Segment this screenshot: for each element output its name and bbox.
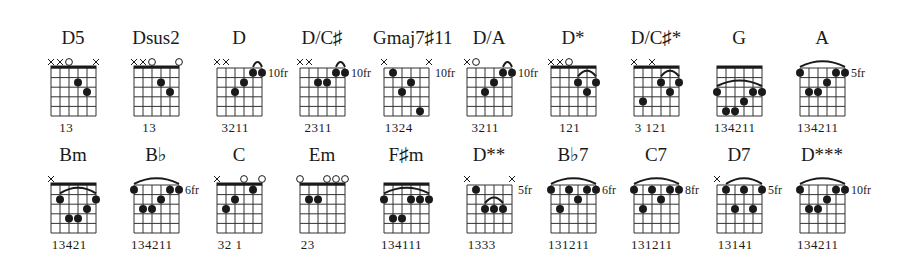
chord-diagram: Em 23 — [289, 145, 369, 265]
finger-dot — [65, 215, 73, 223]
finger-dot — [148, 205, 156, 213]
open-string-icon — [66, 59, 73, 66]
fret-position-label: 6fr — [185, 184, 199, 196]
muted-string-icon — [48, 59, 54, 65]
muted-string-icon — [131, 59, 137, 65]
finger-dot — [314, 78, 322, 86]
fingering-label: 1333 — [464, 237, 530, 253]
finger-dot — [240, 78, 248, 86]
finger-dot — [657, 78, 665, 86]
finger-dot — [841, 186, 849, 194]
chord-diagram: D**5fr 1333 — [456, 145, 536, 265]
barre-arc — [717, 80, 762, 86]
nut — [551, 66, 597, 69]
barre-arc — [384, 188, 429, 194]
finger-dot — [407, 78, 415, 86]
finger-dot — [83, 88, 91, 96]
finger-dot — [341, 69, 349, 77]
muted-string-icon — [548, 59, 554, 65]
finger-dot — [130, 186, 138, 194]
nut — [51, 66, 97, 69]
finger-dot — [758, 88, 766, 96]
open-string-icon — [473, 59, 480, 66]
barre-arc — [800, 61, 845, 67]
fingering-label: 23 — [297, 237, 363, 253]
finger-dot — [666, 186, 674, 194]
finger-dot — [249, 186, 257, 194]
muted-string-icon — [631, 59, 637, 65]
barre-arc — [800, 178, 845, 184]
finger-dot — [639, 98, 647, 106]
finger-dot — [796, 69, 804, 77]
finger-dot — [666, 88, 674, 96]
muted-string-icon — [464, 59, 470, 65]
finger-dot — [823, 78, 831, 86]
finger-dot — [639, 205, 647, 213]
finger-dot — [805, 88, 813, 96]
muted-string-icon — [306, 59, 312, 65]
barre-arc — [503, 62, 512, 67]
fingering-label: 121 — [548, 120, 614, 136]
finger-dot — [258, 69, 266, 77]
finger-dot — [731, 205, 739, 213]
finger-dot — [481, 205, 489, 213]
fingering-label: 131211 — [548, 237, 614, 253]
chord-diagram: D***10fr134211 — [789, 145, 869, 265]
finger-dot — [758, 186, 766, 194]
fret-position-label: 10fr — [435, 67, 455, 79]
chord-diagram: A5fr134211 — [789, 28, 869, 148]
chord-diagram: D10fr 3211 — [206, 28, 286, 148]
finger-dot — [74, 215, 82, 223]
chord-diagram: C78fr131211 — [623, 145, 703, 265]
finger-dot — [675, 78, 683, 86]
fingering-label: 134211 — [797, 237, 863, 253]
finger-dot — [389, 215, 397, 223]
open-string-icon — [241, 176, 248, 183]
chord-diagram: D/A10fr 3211 — [456, 28, 536, 148]
finger-dot — [740, 98, 748, 106]
muted-string-icon — [381, 59, 387, 65]
open-string-icon — [259, 176, 266, 183]
finger-dot — [556, 205, 564, 213]
finger-dot — [305, 195, 313, 203]
finger-dot — [490, 205, 498, 213]
finger-dot — [83, 205, 91, 213]
finger-dot — [731, 107, 739, 115]
open-string-icon — [566, 59, 573, 66]
fret-position-label: 10fr — [851, 184, 871, 196]
finger-dot — [249, 69, 257, 77]
muted-string-icon — [214, 59, 220, 65]
finger-dot — [314, 195, 322, 203]
chord-diagram: D/C♯* 3 121 — [623, 28, 703, 148]
finger-dot — [648, 186, 656, 194]
chord-diagram: Gmaj7♯1110fr 1324 — [373, 28, 453, 148]
chord-diagram: C 32 1 — [206, 145, 286, 265]
open-string-icon — [342, 176, 349, 183]
finger-dot — [630, 186, 638, 194]
chord-diagram: D5 13 — [40, 28, 120, 148]
finger-dot — [175, 186, 183, 194]
finger-dot — [749, 205, 757, 213]
nut — [134, 66, 180, 69]
fret-position-label: 10fr — [351, 67, 371, 79]
fret-position-label: 5fr — [851, 67, 865, 79]
fret-position-label: 5fr — [518, 184, 532, 196]
finger-dot — [157, 78, 165, 86]
finger-dot — [231, 195, 239, 203]
barre-arc — [634, 178, 679, 184]
nut — [384, 183, 430, 186]
fingering-label: 131211 — [631, 237, 697, 253]
finger-dot — [166, 186, 174, 194]
finger-dot — [139, 205, 147, 213]
nut — [300, 183, 346, 186]
fret-position-label: 10fr — [268, 67, 288, 79]
finger-dot — [416, 195, 424, 203]
chord-diagram: Bm 13421 — [40, 145, 120, 265]
fingering-label: 13 — [48, 120, 114, 136]
finger-dot — [675, 186, 683, 194]
chord-diagram: Dsus2 13 — [123, 28, 203, 148]
finger-dot — [722, 186, 730, 194]
finger-dot — [592, 78, 600, 86]
fingering-label: 32 1 — [214, 237, 280, 253]
chord-diagram: D75fr 13141 — [706, 145, 786, 265]
